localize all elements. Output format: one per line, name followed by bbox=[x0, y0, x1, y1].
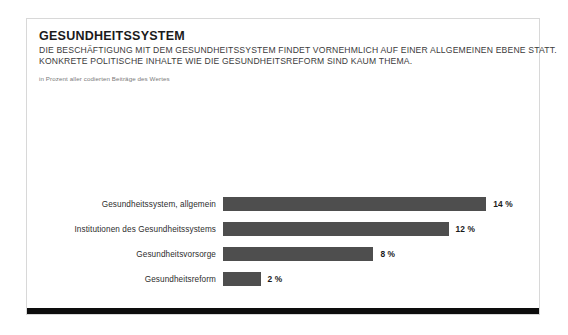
bar-category-label: Gesundheitssystem, allgemein bbox=[27, 200, 216, 209]
bar-track: 8 % bbox=[223, 247, 535, 261]
footer-rule bbox=[27, 308, 539, 314]
bar-value-label: 12 % bbox=[456, 224, 476, 234]
subtitle-block: DIE BESCHÄFTIGUNG MIT DEM GESUNDHEITSSYS… bbox=[39, 45, 529, 67]
bar-value-label: 14 % bbox=[493, 199, 513, 209]
bar bbox=[223, 222, 449, 236]
page-title: GESUNDHEITSSYSTEM bbox=[39, 29, 529, 44]
chart-row: Gesundheitsvorsorge 8 % bbox=[27, 247, 539, 261]
bar bbox=[223, 272, 261, 286]
chart-row: Gesundheitsreform 2 % bbox=[27, 272, 539, 286]
bar-value-label: 2 % bbox=[268, 274, 283, 284]
infographic-card: GESUNDHEITSSYSTEM DIE BESCHÄFTIGUNG MIT … bbox=[26, 18, 540, 315]
page-root: GESUNDHEITSSYSTEM DIE BESCHÄFTIGUNG MIT … bbox=[0, 0, 568, 335]
bar-category-label: Gesundheitsvorsorge bbox=[27, 250, 216, 259]
bar bbox=[223, 197, 486, 211]
chart-row: Gesundheitssystem, allgemein 14 % bbox=[27, 197, 539, 211]
source-note: in Prozent aller codierten Beiträge des … bbox=[39, 74, 529, 83]
bar-value-label: 8 % bbox=[380, 249, 395, 259]
bar-track: 2 % bbox=[223, 272, 535, 286]
subtitle-line-1: DIE BESCHÄFTIGUNG MIT DEM GESUNDHEITSSYS… bbox=[39, 45, 529, 56]
bar-category-label: Gesundheitsreform bbox=[27, 275, 216, 284]
card-header: GESUNDHEITSSYSTEM DIE BESCHÄFTIGUNG MIT … bbox=[39, 29, 529, 83]
bar-track: 12 % bbox=[223, 222, 535, 236]
bar-chart: Gesundheitssystem, allgemein 14 % Instit… bbox=[27, 197, 539, 297]
chart-row: Institutionen des Gesundheitssystems 12 … bbox=[27, 222, 539, 236]
bar-track: 14 % bbox=[223, 197, 535, 211]
bar bbox=[223, 247, 373, 261]
subtitle-line-2: KONKRETE POLITISCHE INHALTE WIE DIE GESU… bbox=[39, 56, 529, 67]
bar-category-label: Institutionen des Gesundheitssystems bbox=[27, 225, 216, 234]
